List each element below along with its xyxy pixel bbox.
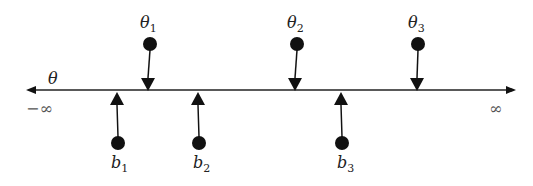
number-line-diagram: θ −∞ ∞ θ1 θ2 θ3 b1 b2 b3 [0,0,533,186]
b-1-label: b1 [111,153,128,175]
theta-2-label: θ2 [287,13,304,35]
down-arrow-icon [141,78,155,91]
theta-1-dot [143,37,157,51]
b-3-marker: b3 [334,92,354,175]
theta-2-dot [290,37,304,51]
theta-1-marker: θ1 [140,13,157,91]
b-2-label: b2 [193,153,210,175]
b-2-dot [192,136,206,150]
b-2-marker: b2 [191,92,210,175]
theta-3-dot [411,37,425,51]
b-1-marker: b1 [110,92,128,175]
axis-label: θ [48,69,58,88]
down-arrow-icon [288,78,302,91]
up-arrow-icon [334,92,348,105]
up-arrow-icon [191,92,205,105]
neg-infinity-label: −∞ [26,99,53,118]
theta-3-marker: θ3 [408,13,425,91]
down-arrow-icon [410,78,424,91]
left-arrowhead-icon [26,86,36,94]
theta-1-label: θ1 [140,13,157,35]
b-1-dot [111,136,125,150]
right-arrowhead-icon [506,86,516,94]
diagram-canvas: θ −∞ ∞ θ1 θ2 θ3 b1 b2 b3 [0,0,533,186]
b-3-label: b3 [337,153,354,175]
pos-infinity-label: ∞ [489,99,502,118]
up-arrow-icon [110,92,124,105]
theta-3-label: θ3 [408,13,425,35]
b-3-dot [335,136,349,150]
theta-2-marker: θ2 [287,13,304,91]
